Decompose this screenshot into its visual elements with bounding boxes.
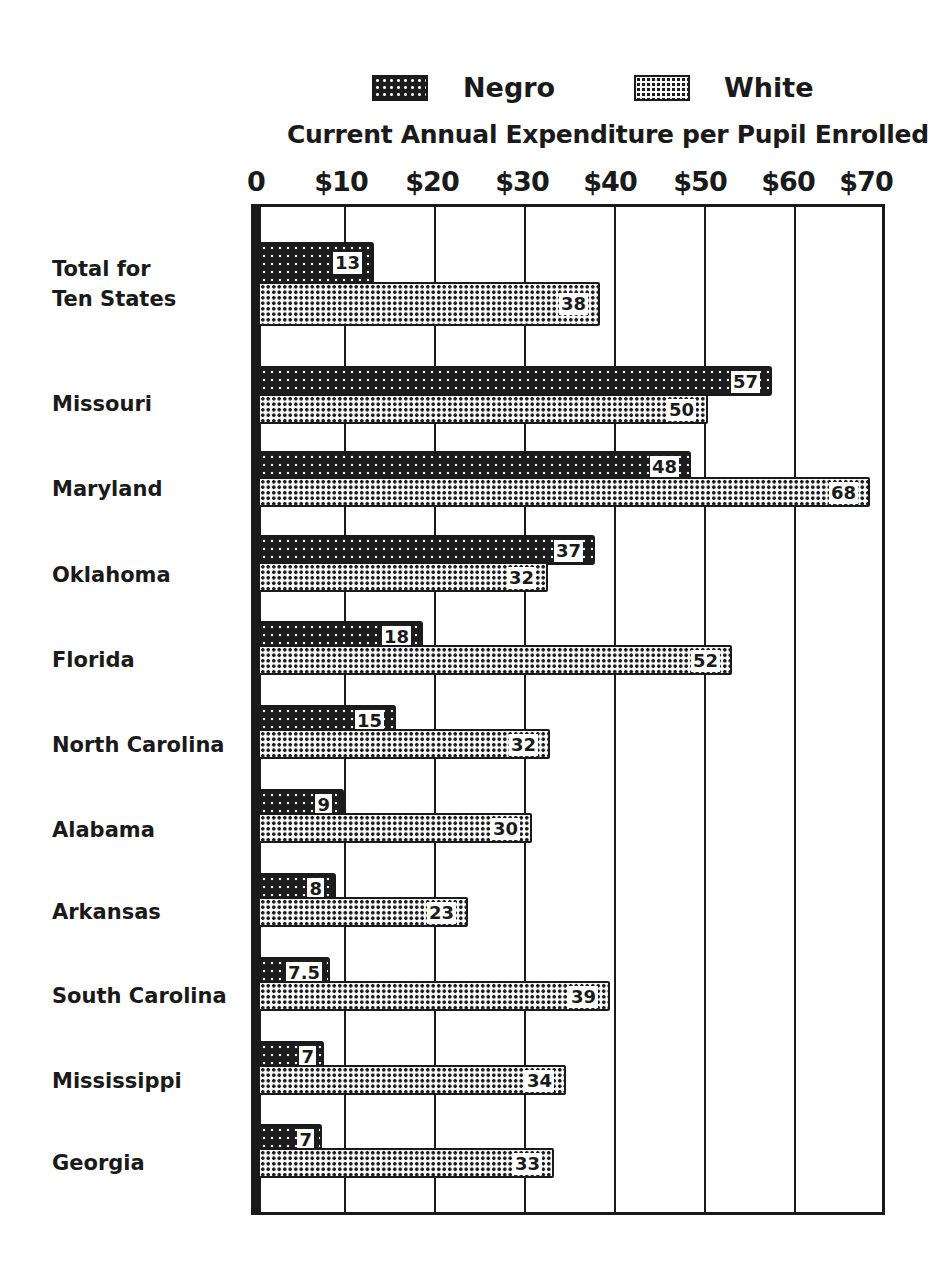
bar-white: 23 xyxy=(258,897,468,927)
legend-swatch-white xyxy=(634,75,690,101)
bar-white: 39 xyxy=(258,981,610,1011)
bar-negro: 13 xyxy=(258,242,374,284)
value-label: 68 xyxy=(829,482,858,504)
x-tick-label: $60 xyxy=(761,166,814,197)
category-label: Arkansas xyxy=(52,897,161,927)
legend-label-negro: Negro xyxy=(463,72,555,103)
value-label: 50 xyxy=(667,399,696,421)
axis-title: Current Annual Expenditure per Pupil Enr… xyxy=(287,120,929,149)
value-label: 38 xyxy=(559,293,588,315)
value-label: 34 xyxy=(525,1070,554,1092)
category-label: Oklahoma xyxy=(52,560,171,590)
gridline xyxy=(704,207,706,1212)
legend-label-white: White xyxy=(724,72,813,103)
bar-white: 33 xyxy=(258,1148,554,1178)
value-label: 52 xyxy=(691,650,720,672)
bar-negro: 37 xyxy=(258,535,595,565)
category-label: Total for Ten States xyxy=(52,254,176,314)
category-label: Mississippi xyxy=(52,1066,182,1096)
x-tick-label: $50 xyxy=(673,166,726,197)
value-label: 33 xyxy=(513,1153,542,1175)
category-label: North Carolina xyxy=(52,730,225,760)
value-label: 48 xyxy=(650,456,679,478)
value-label: 39 xyxy=(569,986,598,1008)
category-label: Missouri xyxy=(52,389,152,419)
value-label: 37 xyxy=(554,540,583,562)
legend-swatch-negro xyxy=(372,75,428,101)
bar-white: 32 xyxy=(258,729,550,759)
x-tick-label: $30 xyxy=(495,166,548,197)
legend: Negro White xyxy=(0,68,938,108)
category-label: Florida xyxy=(52,645,135,675)
bar-white: 38 xyxy=(258,282,600,326)
value-label: 57 xyxy=(731,371,760,393)
category-label: South Carolina xyxy=(52,981,227,1011)
gridline xyxy=(434,207,436,1212)
bar-white: 52 xyxy=(258,645,732,675)
value-label: 30 xyxy=(491,818,520,840)
gridline xyxy=(614,207,616,1212)
value-label: 32 xyxy=(507,567,536,589)
bar-white: 68 xyxy=(258,477,870,507)
gridline xyxy=(524,207,526,1212)
bar-white: 30 xyxy=(258,813,532,843)
bar-white: 34 xyxy=(258,1065,566,1095)
bar-white: 50 xyxy=(258,394,708,424)
category-label: Maryland xyxy=(52,474,162,504)
gridline xyxy=(794,207,796,1212)
value-label: 13 xyxy=(333,252,362,274)
bar-white: 32 xyxy=(258,562,548,592)
category-label-line: Ten States xyxy=(52,284,176,314)
category-label-line: Total for xyxy=(52,254,176,284)
category-label: Alabama xyxy=(52,815,155,845)
value-label: 32 xyxy=(509,734,538,756)
category-label: Georgia xyxy=(52,1148,145,1178)
x-tick-label: $20 xyxy=(405,166,458,197)
x-tick-label: $70 xyxy=(839,166,892,197)
x-tick-label: 0 xyxy=(247,166,265,197)
bar-negro: 57 xyxy=(258,366,772,396)
x-tick-label: $40 xyxy=(583,166,636,197)
x-tick-label: $10 xyxy=(314,166,367,197)
value-label: 23 xyxy=(427,902,456,924)
